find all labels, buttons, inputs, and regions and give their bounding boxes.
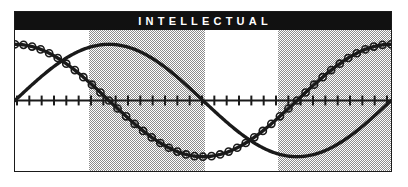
cycle-curve-plain <box>15 44 391 156</box>
chart-frame: INTELLECTUAL <box>14 11 392 172</box>
plot-area <box>15 30 391 171</box>
screenshot-root: INTELLECTUAL <box>0 0 408 187</box>
chart-title-bar: INTELLECTUAL <box>15 12 391 30</box>
page-title: INTELLECTUAL <box>134 12 272 30</box>
curves-layer <box>15 30 391 171</box>
